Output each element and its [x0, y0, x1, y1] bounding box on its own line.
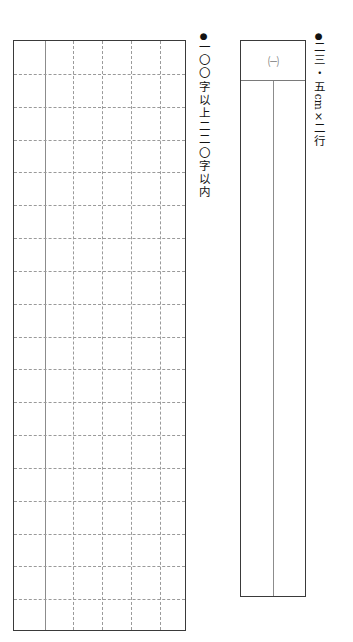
manuscript-grid — [13, 40, 186, 631]
answer-box[interactable]: ㈠ — [240, 40, 306, 597]
grid-row-rule-15 — [14, 534, 185, 535]
grid-column-rule-3 — [131, 41, 132, 630]
bullet-icon: ● — [198, 31, 209, 41]
grid-column-rule-2 — [102, 41, 103, 630]
grid-row-rule-8 — [14, 304, 185, 305]
note-dimensions-multiply: × — [313, 110, 325, 122]
grid-row-rule-5 — [14, 205, 185, 206]
grid-column-rule-solid — [45, 41, 46, 630]
grid-column-rule-1 — [73, 41, 74, 630]
grid-row-rule-17 — [14, 599, 185, 600]
note-character-count-text: 一〇〇字以上二二〇字以内 — [197, 41, 211, 199]
grid-row-rule-7 — [14, 271, 185, 272]
note-dimensions: ●二三・五cm×二行 — [311, 31, 325, 161]
note-dimensions-lines: 二行 — [312, 122, 326, 148]
grid-row-rule-11 — [14, 402, 185, 403]
grid-row-rule-3 — [14, 140, 185, 141]
note-character-count: ●一〇〇字以上二二〇字以内 — [196, 31, 210, 221]
grid-row-rule-16 — [14, 566, 185, 567]
grid-row-rule-12 — [14, 435, 185, 436]
grid-row-rule-14 — [14, 501, 185, 502]
note-dimensions-unit: cm — [313, 94, 325, 110]
grid-column-rule-4 — [160, 41, 161, 630]
grid-row-rule-10 — [14, 369, 185, 370]
grid-row-rule-13 — [14, 468, 185, 469]
bullet-icon: ● — [313, 31, 324, 41]
note-dimensions-value: 二三・五 — [312, 41, 326, 94]
answer-number-label: ㈠ — [268, 53, 279, 69]
answer-box-column-divider — [273, 81, 274, 596]
grid-row-rule-9 — [14, 337, 185, 338]
answer-box-header: ㈠ — [241, 41, 305, 81]
grid-row-rule-4 — [14, 172, 185, 173]
grid-row-rule-1 — [14, 74, 185, 75]
grid-row-rule-2 — [14, 107, 185, 108]
grid-row-rule-6 — [14, 238, 185, 239]
